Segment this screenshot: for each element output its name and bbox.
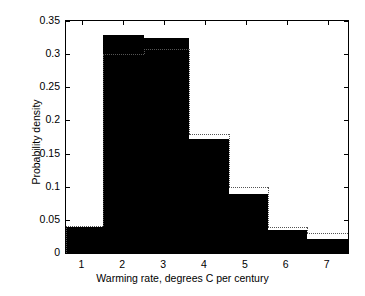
x-tick-label: 6 [283,258,289,270]
outline-step-top [66,226,103,227]
x-tick-mark [82,249,83,253]
x-tick-mark-top [164,21,165,25]
x-tick-mark-top [328,21,329,25]
x-tick-label: 5 [242,258,248,270]
x-tick-mark-top [246,21,247,25]
outline-step-top [307,233,348,234]
y-tick-mark [66,220,70,221]
outline-step-riser [103,54,104,226]
y-tick-mark [66,154,70,155]
x-tick-mark-top [205,21,206,25]
y-tick-mark-right [344,154,348,155]
y-axis-label: Probability density [30,72,42,212]
outline-step-riser [189,49,190,134]
x-tick-label: 1 [78,258,84,270]
x-tick-mark [328,249,329,253]
outline-step-riser [229,134,230,187]
outline-step-riser [268,187,269,228]
x-tick-mark-top [82,21,83,25]
y-tick-mark [66,253,70,254]
y-tick-mark-right [344,253,348,254]
y-tick-mark [66,120,70,121]
x-tick-mark [123,249,124,253]
outline-step-top [268,227,307,228]
outline-step-top [103,54,144,55]
x-tick-mark-top [123,21,124,25]
histogram-bar [189,139,230,253]
y-tick-mark-right [344,21,348,22]
x-tick-mark [287,249,288,253]
x-tick-label: 7 [324,258,330,270]
outline-step-riser [66,226,67,253]
y-tick-mark-right [344,87,348,88]
y-tick-label: 0.35 [0,14,60,26]
y-tick-mark [66,87,70,88]
outline-step-top [144,49,189,50]
histogram-bar [103,35,144,253]
y-tick-label: 0.3 [0,47,60,59]
y-tick-label: 0 [0,246,60,258]
y-tick-mark-right [344,187,348,188]
outline-step-riser [307,227,308,233]
y-tick-mark-right [344,54,348,55]
x-axis-label: Warming rate, degrees C per century [0,272,365,284]
x-tick-mark [246,249,247,253]
y-tick-mark-right [344,220,348,221]
x-tick-label: 4 [201,258,207,270]
outline-step-riser [144,49,145,55]
histogram-bar [229,194,268,253]
x-tick-label: 3 [160,258,166,270]
y-tick-mark [66,54,70,55]
y-tick-label: 0.05 [0,213,60,225]
chart-figure: 00.050.10.150.20.250.30.35 1234567 Warmi… [0,0,365,296]
histogram-bar [268,230,307,253]
x-tick-mark [164,249,165,253]
y-tick-mark [66,21,70,22]
y-tick-mark-right [344,120,348,121]
outline-step-riser [348,233,349,253]
x-tick-label: 2 [119,258,125,270]
histogram-bar [144,38,189,253]
x-tick-mark-top [287,21,288,25]
y-tick-mark [66,187,70,188]
outline-step-top [189,134,230,135]
plot-area [65,20,349,254]
x-tick-mark [205,249,206,253]
histogram-bar [66,227,103,253]
outline-step-top [229,187,268,188]
